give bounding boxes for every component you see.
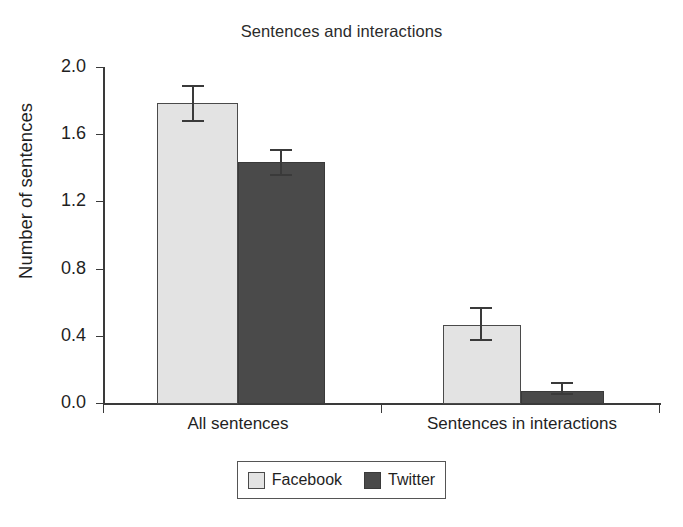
y-tick-label-0-0: 0.0 <box>26 393 86 411</box>
error-bar-facebook-sentences-in-interactions <box>470 307 492 341</box>
error-bar-stem <box>192 85 194 122</box>
error-bar-facebook-all-sentences <box>182 85 204 122</box>
bar-chart: Sentences and interactions Number of sen… <box>0 0 683 527</box>
legend-label-twitter: Twitter <box>388 471 435 489</box>
error-bar-stem <box>480 307 482 341</box>
y-tick-label-1-2: 1.2 <box>26 191 86 209</box>
x-tick-mark-start <box>103 404 104 413</box>
y-tick-mark-0-8 <box>96 269 103 270</box>
error-bar-cap-top <box>270 149 292 151</box>
error-bar-cap-bottom <box>270 174 292 176</box>
error-bar-cap-bottom <box>182 120 204 122</box>
legend-swatch-facebook-icon <box>248 472 265 489</box>
error-bar-cap-top <box>182 85 204 87</box>
y-tick-label-1-6: 1.6 <box>26 124 86 142</box>
chart-title: Sentences and interactions <box>0 22 683 41</box>
error-bar-cap-bottom <box>470 339 492 341</box>
error-bar-cap-bottom <box>551 393 573 395</box>
error-bar-cap-top <box>470 307 492 309</box>
y-axis-line <box>103 67 105 405</box>
x-category-label-sentences-in-interactions: Sentences in interactions <box>378 414 666 434</box>
x-tick-mark-end <box>659 404 660 413</box>
legend-entry-facebook[interactable]: Facebook <box>248 471 342 489</box>
legend-swatch-twitter-icon <box>364 472 381 489</box>
legend-label-facebook: Facebook <box>272 471 342 489</box>
error-bar-twitter-sentences-in-interactions <box>551 382 573 395</box>
x-tick-mark-separator <box>381 404 382 413</box>
y-tick-mark-2-0 <box>96 67 103 68</box>
error-bar-stem <box>280 149 282 176</box>
y-tick-label-0-4: 0.4 <box>26 326 86 344</box>
y-tick-mark-1-6 <box>96 134 103 135</box>
legend: Facebook Twitter <box>237 461 446 499</box>
y-tick-mark-0-4 <box>96 336 103 337</box>
y-tick-mark-0-0 <box>96 403 103 404</box>
y-tick-label-0-8: 0.8 <box>26 259 86 277</box>
y-tick-label-2-0: 2.0 <box>26 57 86 75</box>
x-category-label-all-sentences: All sentences <box>93 414 383 434</box>
error-bar-twitter-all-sentences <box>270 149 292 176</box>
y-tick-mark-1-2 <box>96 201 103 202</box>
bar-twitter-all-sentences[interactable] <box>238 162 325 404</box>
legend-entry-twitter[interactable]: Twitter <box>364 471 435 489</box>
bar-facebook-all-sentences[interactable] <box>157 103 238 404</box>
error-bar-cap-top <box>551 382 573 384</box>
